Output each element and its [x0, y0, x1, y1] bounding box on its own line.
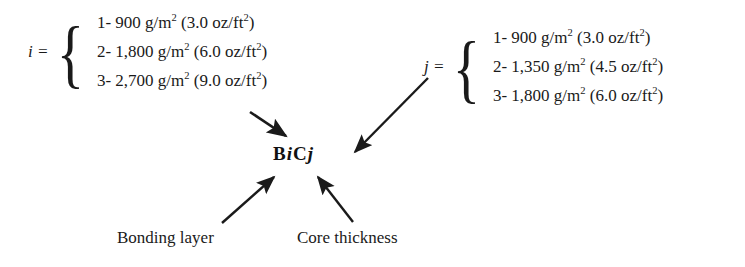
option-metric: 900 g/m	[511, 28, 567, 47]
arrow-caption-core-to-formula	[318, 177, 353, 222]
option-imperial: (4.5 oz/ft	[590, 57, 652, 76]
option-index: 2-	[493, 57, 507, 76]
option-index: 1-	[493, 28, 507, 47]
option-list-bonding-layer: 1- 900 g/m2 (3.0 oz/ft2) 2- 1,800 g/m2 (…	[91, 8, 267, 95]
imperial-close-paren: )	[657, 57, 663, 76]
list-item: 1- 900 g/m2 (3.0 oz/ft2)	[493, 23, 663, 52]
list-item: 2- 1,350 g/m2 (4.5 oz/ft2)	[493, 52, 663, 81]
imperial-close-paren: )	[645, 28, 651, 47]
option-index: 3-	[493, 86, 507, 105]
option-metric: 900 g/m	[115, 13, 171, 32]
diagram-canvas: i = { 1- 900 g/m2 (3.0 oz/ft2) 2- 1,800 …	[0, 0, 745, 267]
variable-label-j: j =	[424, 57, 448, 77]
caption-core-thickness: Core thickness	[297, 228, 398, 248]
metric-exponent: 2	[580, 56, 585, 67]
formula-part-j: j	[308, 143, 314, 164]
arrow-bonding-definition-to-formula	[250, 112, 286, 136]
list-item: 2- 1,800 g/m2 (6.0 oz/ft2)	[97, 37, 267, 66]
option-metric: 1,350 g/m	[511, 57, 580, 76]
metric-exponent: 2	[580, 85, 585, 96]
option-index: 1-	[97, 13, 111, 32]
arrow-core-definition-to-formula	[355, 78, 428, 152]
option-metric: 2,700 g/m	[115, 71, 184, 90]
option-metric: 1,800 g/m	[511, 86, 580, 105]
option-list-core-thickness: 1- 900 g/m2 (3.0 oz/ft2) 2- 1,350 g/m2 (…	[487, 23, 663, 110]
metric-exponent: 2	[172, 12, 177, 23]
formula-part-c: C	[293, 143, 308, 164]
metric-exponent: 2	[184, 70, 189, 81]
option-index: 2-	[97, 42, 111, 61]
option-index: 3-	[97, 71, 111, 90]
option-imperial: (6.0 oz/ft	[590, 86, 652, 105]
metric-exponent: 2	[184, 41, 189, 52]
option-metric: 1,800 g/m	[115, 42, 184, 61]
option-imperial: (3.0 oz/ft	[181, 13, 243, 32]
center-formula-label: BiCj	[273, 143, 314, 165]
brace-group-core-thickness: j = { 1- 900 g/m2 (3.0 oz/ft2) 2- 1,350 …	[424, 23, 663, 110]
arrow-caption-bonding-to-formula	[222, 177, 274, 223]
option-imperial: (6.0 oz/ft	[194, 42, 256, 61]
option-imperial: (9.0 oz/ft	[194, 71, 256, 90]
option-imperial: (3.0 oz/ft	[577, 28, 639, 47]
metric-exponent: 2	[568, 27, 573, 38]
list-item: 3- 2,700 g/m2 (9.0 oz/ft2)	[97, 66, 267, 95]
list-item: 3- 1,800 g/m2 (6.0 oz/ft2)	[493, 81, 663, 110]
formula-part-b: B	[273, 143, 287, 164]
variable-label-i: i =	[28, 42, 52, 62]
list-item: 1- 900 g/m2 (3.0 oz/ft2)	[97, 8, 267, 37]
brace-group-bonding-layer: i = { 1- 900 g/m2 (3.0 oz/ft2) 2- 1,800 …	[28, 8, 267, 95]
imperial-close-paren: )	[657, 86, 663, 105]
caption-bonding-layer: Bonding layer	[117, 228, 214, 248]
imperial-close-paren: )	[261, 71, 267, 90]
imperial-close-paren: )	[249, 13, 255, 32]
imperial-close-paren: )	[261, 42, 267, 61]
